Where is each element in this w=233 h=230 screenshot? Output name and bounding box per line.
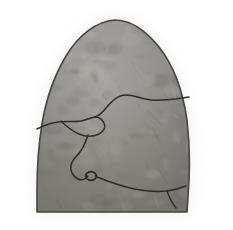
specimen-illustration — [0, 0, 233, 230]
figure-root — [0, 0, 233, 230]
